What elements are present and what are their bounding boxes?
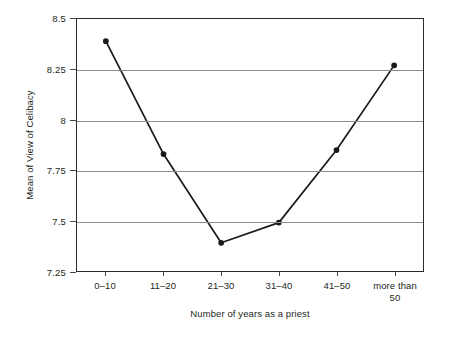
x-axis-tick-label: 0–10	[94, 280, 116, 292]
x-axis-tick-label: more than 50	[373, 280, 417, 304]
line-series	[77, 19, 423, 271]
x-axis-tick-mark	[163, 272, 164, 276]
y-axis-tick-label: 8.25	[47, 63, 66, 74]
x-axis-tick-label: 31–40	[266, 280, 293, 292]
gridline	[77, 121, 423, 122]
x-axis-tick-mark	[279, 272, 280, 276]
x-axis-tick-mark	[395, 272, 396, 276]
x-axis-tick-mark	[337, 272, 338, 276]
gridline	[77, 222, 423, 223]
data-point-marker	[334, 147, 340, 153]
y-axis-tick-label: 7.5	[52, 216, 66, 227]
x-axis-tick-mark	[105, 272, 106, 276]
data-point-marker	[103, 38, 109, 44]
chart-figure: Mean of View of Celibacy 7.257.57.7588.2…	[0, 0, 449, 341]
data-point-marker	[218, 240, 224, 246]
x-axis-tick-label: 11–20	[150, 280, 176, 292]
y-axis-tick-label: 8	[61, 114, 66, 125]
plot-area	[76, 18, 424, 272]
x-axis-tick-label: 21–30	[208, 280, 235, 292]
data-point-marker	[161, 151, 167, 157]
series-line	[106, 41, 394, 243]
y-axis-tick-label: 8.5	[52, 13, 66, 24]
x-axis-tick-label: 41–50	[324, 280, 351, 292]
data-point-marker	[391, 62, 397, 68]
x-axis-title: Number of years as a priest	[76, 308, 424, 319]
x-axis-tick-group: 0–1011–2021–3031–4041–50more than 50	[0, 272, 449, 332]
gridline	[77, 171, 423, 172]
gridline	[77, 70, 423, 71]
y-axis-tick-label: 7.75	[47, 165, 66, 176]
x-axis-tick-mark	[221, 272, 222, 276]
